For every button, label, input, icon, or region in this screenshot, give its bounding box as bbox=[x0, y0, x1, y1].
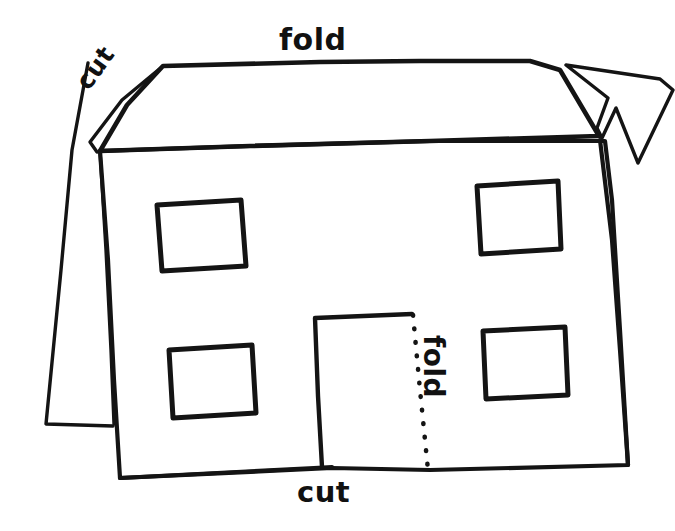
window-top-left bbox=[157, 200, 246, 271]
right-wall-edge bbox=[600, 140, 628, 465]
label-cut-bottom: cut bbox=[297, 475, 350, 509]
right-side-flap bbox=[566, 65, 673, 163]
window-bottom-right bbox=[483, 327, 568, 399]
window-top-right bbox=[477, 181, 561, 254]
roof-panel bbox=[100, 61, 599, 151]
door-outline bbox=[315, 314, 412, 467]
left-wall-fold-edge bbox=[100, 151, 114, 424]
left-side-flap bbox=[46, 63, 113, 426]
label-fold-roof: fold bbox=[279, 22, 346, 57]
window-bottom-left bbox=[169, 345, 256, 418]
front-wall bbox=[100, 141, 628, 478]
label-fold-door: fold bbox=[417, 335, 450, 398]
paper-house-diagram: fold cut fold cut bbox=[0, 0, 675, 531]
